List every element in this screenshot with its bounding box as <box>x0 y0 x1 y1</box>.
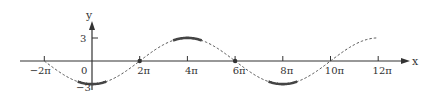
x-axis-arrow-icon <box>401 58 410 64</box>
origin-label: 0 <box>81 65 87 76</box>
highlight-point <box>233 59 237 63</box>
x-tick-label: 4π <box>185 65 198 76</box>
x-tick-label: 6π <box>233 65 246 76</box>
y-tick-label-3: 3 <box>80 33 86 44</box>
x-tick-label: 10π <box>325 65 345 76</box>
highlight-segment <box>268 82 297 85</box>
x-tick-label: 12π <box>373 65 393 76</box>
x-ticks <box>44 56 378 61</box>
y-tick-label-neg3: −3 <box>76 82 91 93</box>
x-tick-label: 8π <box>280 65 293 76</box>
y-axis-label: y <box>85 9 93 22</box>
x-tick-label: −2π <box>30 65 52 76</box>
highlight-point <box>138 59 142 63</box>
highlight-segment <box>173 38 202 41</box>
chart: x y 3 −3 0 −2π2π4π6π8π10π12π <box>0 0 426 104</box>
x-axis-label: x <box>412 55 419 68</box>
plot-area: x y 3 −3 0 −2π2π4π6π8π10π12π <box>0 0 426 104</box>
x-tick-label: 2π <box>137 65 150 76</box>
y-axis-arrow-icon <box>89 21 95 30</box>
